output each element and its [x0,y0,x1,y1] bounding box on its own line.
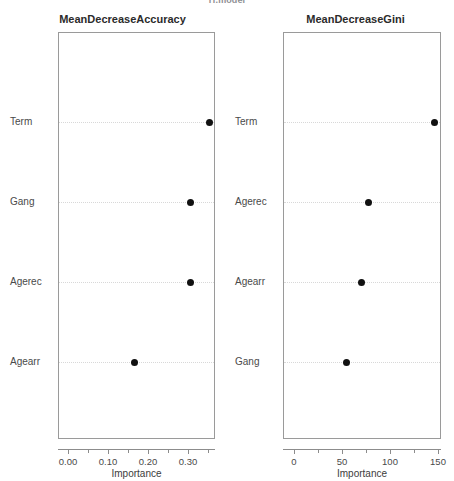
plot-area-left [58,32,215,439]
x-tick-minor [366,449,367,453]
grid-line [59,122,214,123]
x-tick-label: 0 [291,456,296,467]
category-label-gang: Gang [235,356,259,367]
x-tick-label: 0.10 [99,456,118,467]
x-axis-title-left: Importance [58,468,215,479]
data-point-term [206,119,213,126]
x-tick-minor [318,449,319,453]
category-label-term: Term [10,116,32,127]
x-axis-title-right: Importance [283,468,441,479]
grid-line [284,202,440,203]
data-point-agerec [365,199,372,206]
panel-left-title: MeanDecreaseAccuracy [0,13,245,25]
category-label-gang: Gang [10,196,34,207]
x-tick-label: 0.00 [59,456,78,467]
x-tick-major [108,449,109,454]
x-tick-major [68,449,69,454]
x-tick-label: 100 [382,456,398,467]
grid-line [284,122,440,123]
x-tick-major [294,449,295,454]
x-tick-label: 50 [337,456,348,467]
x-tick-minor [128,449,129,453]
panel-mean-decrease-accuracy: MeanDecreaseAccuracy Term Gang Agerec Ag… [0,0,227,481]
x-tick-label: 150 [430,456,446,467]
category-label-agerec: Agerec [235,196,267,207]
x-tick-major [390,449,391,454]
panel-right-title: MeanDecreaseGini [257,13,454,25]
x-axis-line-right [283,449,441,450]
x-tick-minor [88,449,89,453]
x-tick-major [438,449,439,454]
x-tick-minor [208,449,209,453]
data-point-agearr [358,279,365,286]
category-label-agearr: Agearr [235,276,265,287]
x-tick-minor [414,449,415,453]
category-label-agerec: Agerec [10,276,42,287]
x-axis-line-left [58,449,215,450]
x-tick-label: 0.30 [179,456,198,467]
x-tick-major [148,449,149,454]
data-point-agearr [131,359,138,366]
x-tick-major [342,449,343,454]
grid-line [284,362,440,363]
category-label-term: Term [235,116,257,127]
x-tick-minor [168,449,169,453]
data-point-agerec [187,279,194,286]
data-point-term [431,119,438,126]
x-tick-major [188,449,189,454]
data-point-gang [187,199,194,206]
category-label-agearr: Agearr [10,356,40,367]
variable-importance-figure: rf.model MeanDecreaseAccuracy Term Gang … [0,0,454,481]
data-point-gang [343,359,350,366]
plot-area-right [283,32,441,439]
x-tick-label: 0.20 [139,456,158,467]
panel-mean-decrease-gini: MeanDecreaseGini Term Agerec Agearr Gang… [227,0,454,481]
